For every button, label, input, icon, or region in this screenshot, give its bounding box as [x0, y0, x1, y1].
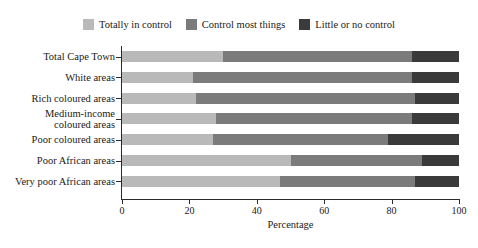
bar-row	[122, 134, 459, 145]
bar-segment	[388, 134, 459, 145]
x-axis-title: Percentage	[122, 219, 459, 231]
bar-segment	[415, 176, 459, 187]
x-tick-label: 20	[184, 205, 194, 216]
bar-segment	[122, 72, 193, 83]
plot-area: Total Cape TownWhite areasRich coloured …	[0, 44, 478, 204]
legend-label: Little or no control	[315, 19, 395, 30]
bar-segment	[196, 93, 415, 104]
x-tick	[324, 199, 325, 204]
x-axis-line	[121, 199, 459, 200]
bar-row	[122, 93, 459, 104]
x-tick	[459, 199, 460, 204]
legend-label: Control most things	[202, 19, 285, 30]
bar-segment	[122, 134, 213, 145]
bar-row	[122, 176, 459, 187]
cropped-title-fragment	[6, 0, 472, 3]
x-tick	[189, 199, 190, 204]
bar-segment	[122, 113, 216, 124]
bar-segment	[412, 113, 459, 124]
bar-segment	[412, 72, 459, 83]
legend-swatch-icon	[186, 19, 197, 30]
legend-label: Totally in control	[99, 19, 172, 30]
x-tick-label: 60	[319, 205, 329, 216]
bar-series-container	[122, 44, 459, 199]
bar-segment	[422, 155, 459, 166]
x-tick-label: 0	[120, 205, 125, 216]
bar-row	[122, 51, 459, 62]
chart-legend: Totally in control Control most things L…	[0, 19, 478, 30]
bar-segment	[122, 176, 280, 187]
bar-row	[122, 155, 459, 166]
bar-segment	[193, 72, 412, 83]
bar-segment	[122, 93, 196, 104]
bar-segment	[216, 113, 411, 124]
stacked-bar-chart: Totally in control Control most things L…	[0, 0, 478, 248]
bar-segment	[122, 155, 291, 166]
bar-segment	[122, 51, 223, 62]
bar-segment	[223, 51, 412, 62]
x-tick-label: 40	[252, 205, 262, 216]
x-tick-label: 80	[387, 205, 397, 216]
x-tick	[392, 199, 393, 204]
bar-row	[122, 72, 459, 83]
bar-row	[122, 113, 459, 124]
legend-item-little-or-no-control: Little or no control	[299, 19, 395, 30]
bar-segment	[213, 134, 388, 145]
bar-segment	[291, 155, 422, 166]
x-tick	[122, 199, 123, 204]
x-tick	[257, 199, 258, 204]
x-tick-label: 100	[452, 205, 467, 216]
bar-segment	[415, 93, 459, 104]
legend-swatch-icon	[83, 19, 94, 30]
bar-segment	[280, 176, 415, 187]
bar-segment	[412, 51, 459, 62]
legend-item-control-most-things: Control most things	[186, 19, 285, 30]
legend-item-totally-in-control: Totally in control	[83, 19, 172, 30]
legend-swatch-icon	[299, 19, 310, 30]
